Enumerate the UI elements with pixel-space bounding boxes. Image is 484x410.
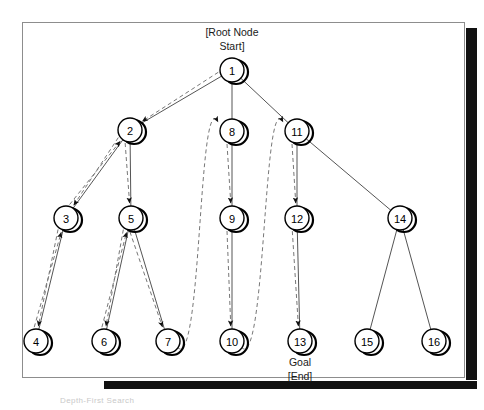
node-label-5: 5 [128,213,134,225]
node-label-15: 15 [361,336,373,348]
tree-edge-3-4 [39,230,63,330]
figure-caption: Depth-First Search [60,396,440,408]
node-10[interactable]: 10 [220,329,248,355]
node-14[interactable]: 14 [388,206,416,232]
tree-edge-14-15 [370,230,397,330]
node-label-13: 13 [294,336,306,348]
traversal-arrow-10-to-11 [241,119,283,349]
node-label-14: 14 [394,213,406,225]
node-9[interactable]: 9 [220,206,248,232]
node-label-7: 7 [165,336,171,348]
traversal-arrow-8-to-9 [227,144,231,203]
tree-edge-14-16 [403,230,431,330]
traversal-arrow-7-to-8 [177,119,218,349]
node-12[interactable]: 12 [285,206,313,232]
tree-edge-5-7 [134,229,164,329]
tree-edge-group [39,76,431,329]
node-label-11: 11 [291,126,302,138]
node-label-16: 16 [428,336,440,348]
node-label-2: 2 [127,125,133,137]
node-label-1: 1 [229,65,235,77]
goal-annotation-line2: [End] [288,370,313,382]
tree-edge-11-14 [306,139,391,211]
node-label-10: 10 [226,336,238,348]
tree-edge-12-13 [297,230,299,329]
node-13[interactable]: 13 [288,329,316,355]
traversal-arrow-1-to-2 [142,72,218,121]
node-1[interactable]: 1 [220,58,248,84]
tree-edge-2-3 [73,140,123,209]
node-label-3: 3 [63,213,69,225]
node-7[interactable]: 7 [156,329,184,355]
traversal-arrow-4-to-3 [34,232,61,327]
figure-page: 12345678910111213141516 [Root Node Start… [0,0,484,410]
node-label-6: 6 [101,336,107,348]
node-label-9: 9 [229,213,235,225]
tree-edge-5-6 [107,230,129,330]
node-8[interactable]: 8 [220,119,248,145]
node-4[interactable]: 4 [24,329,52,355]
node-label-8: 8 [229,126,235,138]
traversal-arrow-11-to-12 [292,144,296,203]
node-5[interactable]: 5 [119,206,147,232]
traversal-arrow-2-to-5 [125,143,129,203]
tree-edge-1-11 [241,78,288,123]
root-annotation-line1: [Root Node [205,26,258,38]
traversal-arrow-5-to-7 [130,232,163,327]
node-11[interactable]: 11 [285,119,313,145]
node-6[interactable]: 6 [92,329,120,355]
node-15[interactable]: 15 [355,329,383,355]
traversal-arrow-9-to-10 [227,231,231,326]
node-label-4: 4 [33,336,39,348]
tree-edge-1-2 [140,76,221,124]
tree-diagram-canvas: 12345678910111213141516 [Root Node Start… [0,0,484,410]
node-16[interactable]: 16 [422,329,450,355]
goal-annotation-line1: Goal [289,356,311,368]
tree-edge-2-5 [130,142,131,206]
node-3[interactable]: 3 [54,206,82,232]
traversal-arrow-6-to-5 [102,232,127,327]
node-label-12: 12 [291,213,303,225]
root-annotation-line2: Start] [219,40,244,52]
